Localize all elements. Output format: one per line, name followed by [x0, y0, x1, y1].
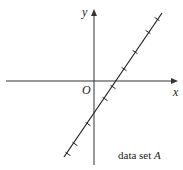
caption-variable: A: [154, 149, 161, 161]
caption-text: data set: [118, 149, 154, 161]
data-set-caption: data set A: [118, 150, 161, 161]
x-axis-label: x: [173, 86, 178, 98]
scatter-chart: [0, 0, 183, 170]
x-axis-arrow: [171, 78, 178, 84]
best-fit-line: [64, 13, 162, 157]
origin-label: O: [82, 84, 91, 96]
y-axis-label: y: [82, 6, 87, 18]
y-axis-arrow: [91, 9, 97, 16]
